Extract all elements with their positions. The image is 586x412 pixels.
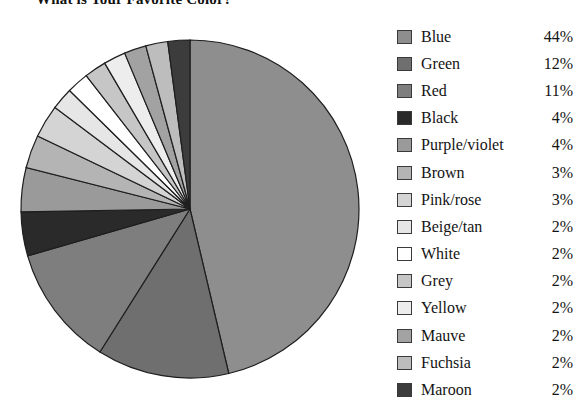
legend-label: Pink/rose	[421, 192, 535, 208]
legend-label: Brown	[421, 165, 535, 181]
legend-swatch-icon	[397, 383, 412, 397]
legend-item: Green12%	[397, 50, 573, 77]
legend-swatch-icon	[397, 274, 412, 288]
legend-percent: 3%	[535, 192, 573, 208]
legend-label: Blue	[421, 29, 535, 45]
legend-percent: 12%	[535, 56, 573, 72]
legend-item: Red11%	[397, 77, 573, 104]
legend-percent: 2%	[535, 273, 573, 289]
legend-item: Grey2%	[397, 268, 573, 295]
legend-label: Yellow	[421, 300, 535, 316]
legend-percent: 2%	[535, 300, 573, 316]
legend-percent: 2%	[535, 328, 573, 344]
legend-label: Red	[421, 83, 535, 99]
legend-swatch-icon	[397, 30, 412, 44]
legend-percent: 2%	[535, 219, 573, 235]
legend-swatch-icon	[397, 84, 412, 98]
legend-item: Black4%	[397, 105, 573, 132]
legend-item: Brown3%	[397, 159, 573, 186]
legend-label: Grey	[421, 273, 535, 289]
legend-item: Yellow2%	[397, 295, 573, 322]
legend-label: Beige/tan	[421, 219, 535, 235]
legend-swatch-icon	[397, 57, 412, 71]
legend-percent: 2%	[535, 246, 573, 262]
legend-label: Green	[421, 56, 535, 72]
legend-swatch-icon	[397, 301, 412, 315]
legend-swatch-icon	[397, 138, 412, 152]
chart-legend: Blue44%Green12%Red11%Black4%Purple/viole…	[397, 23, 573, 404]
legend-item: Maroon2%	[397, 376, 573, 403]
legend-label: Black	[421, 110, 535, 126]
legend-swatch-icon	[397, 166, 412, 180]
legend-item: White2%	[397, 241, 573, 268]
legend-percent: 3%	[535, 165, 573, 181]
legend-swatch-icon	[397, 356, 412, 370]
legend-percent: 2%	[535, 355, 573, 371]
legend-item: Fuchsia2%	[397, 349, 573, 376]
legend-item: Mauve2%	[397, 322, 573, 349]
legend-label: Purple/violet	[421, 137, 535, 153]
legend-swatch-icon	[397, 329, 412, 343]
legend-percent: 4%	[535, 137, 573, 153]
legend-swatch-icon	[397, 220, 412, 234]
legend-item: Purple/violet4%	[397, 132, 573, 159]
pie-chart-svg	[0, 0, 392, 412]
pie-chart	[0, 0, 392, 412]
legend-item: Beige/tan2%	[397, 213, 573, 240]
legend-label: Mauve	[421, 328, 535, 344]
legend-item: Pink/rose3%	[397, 186, 573, 213]
legend-percent: 4%	[535, 110, 573, 126]
legend-percent: 44%	[535, 29, 573, 45]
legend-label: Maroon	[421, 382, 535, 398]
legend-swatch-icon	[397, 111, 412, 125]
legend-item: Blue44%	[397, 23, 573, 50]
legend-label: Fuchsia	[421, 355, 535, 371]
legend-percent: 2%	[535, 382, 573, 398]
legend-swatch-icon	[397, 193, 412, 207]
legend-label: White	[421, 246, 535, 262]
legend-swatch-icon	[397, 247, 412, 261]
legend-percent: 11%	[535, 83, 573, 99]
